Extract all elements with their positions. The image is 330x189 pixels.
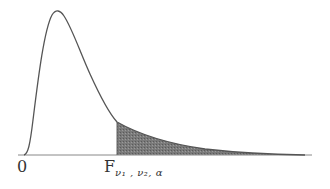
critical-value-label: Fν₁ , ν₂, α: [104, 157, 163, 176]
critical-value-main: F: [104, 157, 115, 176]
critical-value-subscript: ν₁ , ν₂, α: [115, 167, 163, 178]
f-distribution-diagram: 0 Fν₁ , ν₂, α: [0, 0, 330, 189]
density-plot: [0, 0, 330, 189]
density-curve: [24, 11, 305, 155]
origin-label: 0: [17, 157, 27, 176]
